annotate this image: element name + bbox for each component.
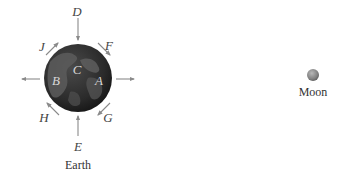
- label-d: D: [72, 5, 81, 18]
- label-a: A: [95, 74, 103, 87]
- earth-caption: Earth: [65, 159, 91, 171]
- moon-caption: Moon: [299, 86, 328, 98]
- moon: [307, 69, 319, 81]
- label-f: F: [105, 39, 113, 52]
- label-b: B: [52, 74, 60, 87]
- label-j: J: [39, 40, 45, 53]
- label-c: C: [73, 63, 82, 76]
- label-h: H: [39, 111, 48, 124]
- label-g: G: [103, 111, 112, 124]
- label-e: E: [74, 140, 82, 153]
- earth-moon-diagram: [0, 0, 339, 177]
